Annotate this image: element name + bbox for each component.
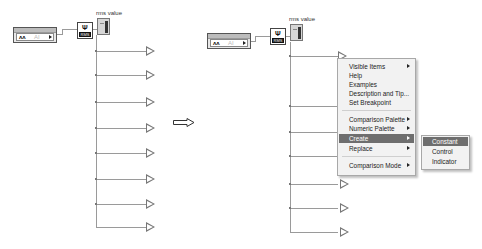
wire-junction — [289, 183, 291, 185]
daq-face: ʌʌ AI — [210, 39, 248, 47]
comparison-node[interactable] — [146, 97, 155, 107]
indicator-label: rms value — [96, 10, 122, 16]
menu-item-description-and-tip[interactable]: Description and Tip... — [339, 89, 414, 98]
comparison-node[interactable] — [146, 174, 155, 184]
menu-item-label: Comparison Palette — [349, 116, 405, 123]
wire-junction — [289, 55, 291, 57]
submenu-item-indicator[interactable]: Indicator — [423, 157, 468, 166]
menu-item-comparison-palette[interactable]: Comparison Palette — [339, 115, 414, 124]
menu-item-label: Set Breakpoint — [349, 99, 391, 106]
branch-wire[interactable] — [290, 156, 338, 157]
waveform-icon: ʌʌ — [19, 34, 26, 41]
submenu-arrow-icon — [407, 64, 410, 68]
rms-value-indicator[interactable] — [97, 18, 110, 35]
submenu-arrow-icon — [407, 146, 410, 150]
branch-wire[interactable] — [290, 56, 338, 57]
indicator-bar — [298, 27, 301, 39]
wire[interactable] — [255, 36, 270, 37]
wire-junction — [289, 105, 291, 107]
menu-item-label: Replace — [349, 145, 372, 152]
branch-wire[interactable] — [290, 232, 338, 233]
channel-label: AI — [228, 40, 234, 47]
menu-item-comparison-mode[interactable]: Comparison Mode — [339, 161, 414, 170]
output-arrow-icon — [243, 41, 246, 45]
menu-item-label: Constant — [432, 138, 458, 145]
channel-label: AI — [34, 34, 40, 41]
menu-item-label: Numeric Palette — [349, 125, 394, 132]
comparison-node[interactable] — [146, 222, 155, 232]
comparison-node[interactable] — [146, 199, 155, 209]
submenu-arrow-icon — [407, 163, 410, 167]
right-arrow-icon — [173, 118, 195, 127]
menu-item-create[interactable]: Create — [339, 134, 414, 143]
menu-item-examples[interactable]: Examples — [339, 80, 414, 89]
rms-label: RMS — [79, 32, 91, 37]
branch-wire[interactable] — [96, 204, 146, 205]
menu-item-label: Create — [349, 135, 368, 142]
rms-label: RMS — [272, 38, 284, 43]
menu-item-label: Description and Tip... — [349, 90, 409, 97]
rms-symbol-icon: Ψ — [275, 30, 281, 37]
comparison-node[interactable] — [146, 123, 155, 133]
branch-wire[interactable] — [96, 75, 146, 76]
submenu-item-control[interactable]: Control — [423, 147, 468, 156]
comparison-node[interactable] — [146, 148, 155, 158]
rms-value-indicator[interactable] — [290, 24, 303, 41]
wire[interactable] — [62, 29, 77, 30]
submenu-item-constant[interactable]: Constant — [423, 137, 468, 146]
branch-wire[interactable] — [96, 179, 146, 180]
branch-wire[interactable] — [290, 208, 338, 209]
comparison-node[interactable] — [146, 70, 155, 80]
daq-assistant-express-vi[interactable]: ʌʌ AI — [207, 33, 251, 49]
branch-wire[interactable] — [96, 227, 146, 228]
menu-separator — [342, 156, 411, 157]
menu-item-label: Indicator — [432, 158, 457, 165]
menu-item-help[interactable]: Help — [339, 71, 414, 80]
indicator-label: rms value — [289, 16, 315, 22]
indicator-tick — [100, 23, 104, 24]
indicator-tick — [293, 29, 297, 30]
create-submenu: Constant Control Indicator — [421, 135, 470, 170]
branch-wire[interactable] — [290, 106, 338, 107]
submenu-arrow-icon — [407, 117, 410, 121]
branch-wire[interactable] — [96, 153, 146, 154]
daq-face: ʌʌ AI — [16, 33, 54, 41]
rms-symbol-icon: Ψ — [82, 24, 88, 31]
branch-wire[interactable] — [290, 184, 338, 185]
daq-assistant-express-vi[interactable]: ʌʌ AI — [13, 27, 57, 43]
comparison-node[interactable] — [340, 179, 349, 189]
menu-item-label: Help — [349, 72, 362, 79]
wire-junction — [95, 127, 97, 129]
comparison-node[interactable] — [340, 227, 349, 237]
menu-item-visible-items[interactable]: Visible Items — [339, 62, 414, 71]
wire-junction — [95, 178, 97, 180]
branch-wire[interactable] — [96, 128, 146, 129]
branch-wire[interactable] — [96, 102, 146, 103]
menu-separator — [342, 110, 411, 111]
comparison-node[interactable] — [340, 203, 349, 213]
menu-item-label: Control — [432, 148, 453, 155]
menu-item-label: Visible Items — [349, 63, 385, 70]
context-menu: Visible Items Help Examples Description … — [337, 58, 416, 176]
menu-item-set-breakpoint[interactable]: Set Breakpoint — [339, 98, 414, 107]
comparison-node[interactable] — [146, 46, 155, 56]
menu-item-replace[interactable]: Replace — [339, 144, 414, 153]
vertical-wire[interactable] — [290, 42, 291, 232]
indicator-bar — [105, 21, 108, 33]
wire-junction — [289, 131, 291, 133]
wire-junction — [95, 152, 97, 154]
vertical-wire[interactable] — [96, 35, 97, 227]
submenu-arrow-icon — [407, 126, 410, 130]
wire-junction — [95, 74, 97, 76]
branch-wire[interactable] — [290, 132, 338, 133]
wire-junction — [95, 203, 97, 205]
rms-function[interactable]: Ψ RMS — [77, 22, 93, 39]
wire-junction — [289, 155, 291, 157]
wire-junction — [95, 50, 97, 52]
wire-junction — [95, 101, 97, 103]
waveform-icon: ʌʌ — [213, 40, 220, 47]
menu-item-label: Examples — [349, 81, 377, 88]
menu-item-numeric-palette[interactable]: Numeric Palette — [339, 124, 414, 133]
branch-wire[interactable] — [96, 51, 146, 52]
rms-function[interactable]: Ψ RMS — [270, 28, 286, 45]
